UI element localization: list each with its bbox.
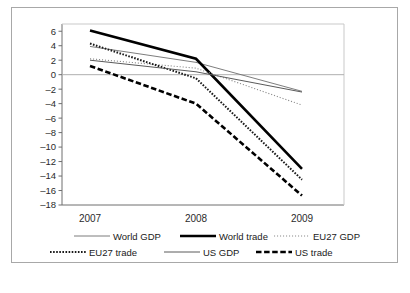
y-axis-tick-label: –14 (40, 170, 56, 181)
y-axis-tick-label: –6 (45, 113, 56, 124)
y-axis-tick-label: –16 (40, 185, 56, 196)
y-axis-tick-label: 0 (51, 69, 56, 80)
legend-label-us-gdp[interactable]: US GDP (203, 247, 239, 258)
y-axis-tick-label: –2 (45, 84, 56, 95)
figure-container: 6420–2–4–6–8–10–12–14–16–18 200720082009… (0, 0, 410, 293)
line-chart: 6420–2–4–6–8–10–12–14–16–18 200720082009… (12, 8, 399, 264)
series-line-world-gdp (90, 46, 302, 91)
y-axis-tick-label: 4 (51, 40, 56, 51)
chart-legend: World GDPWorld tradeEU27 GDPEU27 tradeUS… (50, 231, 360, 258)
y-axis-tick-label: 6 (51, 26, 56, 37)
chart-plot-area: 6420–2–4–6–8–10–12–14–16–18 200720082009… (12, 8, 399, 264)
x-axis-tick-label: 2009 (291, 213, 314, 224)
x-axis-tick-label: 2007 (79, 213, 102, 224)
y-axis-tick-label: –12 (40, 156, 56, 167)
y-axis-tick-label: 2 (51, 55, 56, 66)
series-line-eu27-gdp (90, 59, 302, 105)
legend-label-world-gdp[interactable]: World GDP (113, 231, 161, 242)
legend-label-us-trade[interactable]: US trade (295, 247, 333, 258)
y-axis-tick-label: –18 (40, 199, 56, 210)
legend-label-world-trade[interactable]: World trade (219, 231, 268, 242)
series-line-us-trade (90, 66, 302, 196)
x-axis-tick-label: 2008 (185, 213, 208, 224)
series-lines (90, 31, 302, 196)
y-axis-tick-label: –4 (45, 98, 56, 109)
legend-label-eu27-gdp[interactable]: EU27 GDP (313, 231, 360, 242)
chart-frame: 6420–2–4–6–8–10–12–14–16–18 200720082009… (11, 7, 398, 263)
y-axis-tick-label: –8 (45, 127, 56, 138)
legend-label-eu27-trade[interactable]: EU27 trade (89, 247, 137, 258)
y-axis-tick-label: –10 (40, 141, 56, 152)
y-axis: 6420–2–4–6–8–10–12–14–16–18 (40, 24, 62, 210)
